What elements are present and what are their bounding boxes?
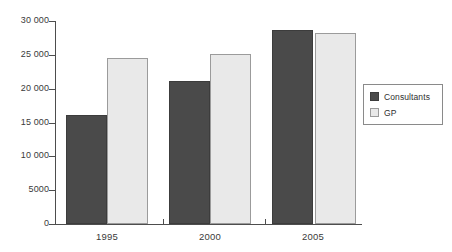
y-axis-label: 30 000 (3, 15, 49, 25)
y-axis-label: 10 000 (3, 150, 49, 160)
bar-gp-2000 (210, 54, 251, 224)
y-axis-label: 5000 (3, 184, 49, 194)
chart-legend: Consultants GP (363, 84, 443, 125)
bar-gp-2005 (315, 33, 356, 224)
y-axis-tick (49, 190, 56, 191)
y-axis-label: 25 000 (3, 49, 49, 59)
bar-consultants-1995 (66, 115, 107, 224)
bar-consultants-2005 (272, 30, 313, 224)
y-axis-tick (49, 21, 56, 22)
x-axis-line (55, 224, 362, 225)
y-axis-label: 15 000 (3, 117, 49, 127)
legend-swatch-gp-icon (370, 108, 379, 117)
grouped-bar-chart: 0500010 00015 00020 00025 00030 000 1995… (0, 0, 452, 252)
legend-item-gp: GP (370, 106, 437, 119)
bar-gp-1995 (107, 58, 148, 224)
y-axis-label-wrap: 25 000 (0, 55, 49, 56)
y-axis-tick (49, 156, 56, 157)
y-axis-label: 0 (3, 218, 49, 228)
legend-swatch-consultants-icon (370, 92, 379, 101)
bar-consultants-2000 (169, 81, 210, 224)
legend-label-gp: GP (384, 108, 396, 118)
y-axis-label-wrap: 20 000 (0, 89, 49, 90)
plot-area (56, 21, 361, 224)
y-axis-tick (49, 89, 56, 90)
y-axis-label-wrap: 10 000 (0, 156, 49, 157)
x-axis-label-2005: 2005 (272, 231, 354, 242)
y-axis-label-wrap: 30 000 (0, 21, 49, 22)
legend-item-consultants: Consultants (370, 90, 437, 103)
y-axis-tick (49, 224, 56, 225)
x-axis-label-1995: 1995 (66, 231, 148, 242)
x-axis-label-2000: 2000 (169, 231, 251, 242)
legend-label-consultants: Consultants (384, 92, 430, 102)
y-axis-label: 20 000 (3, 83, 49, 93)
y-axis-tick (49, 123, 56, 124)
y-axis-label-wrap: 5000 (0, 190, 49, 191)
y-axis-label-wrap: 0 (0, 224, 49, 225)
y-axis-label-wrap: 15 000 (0, 123, 49, 124)
y-axis-tick (49, 55, 56, 56)
